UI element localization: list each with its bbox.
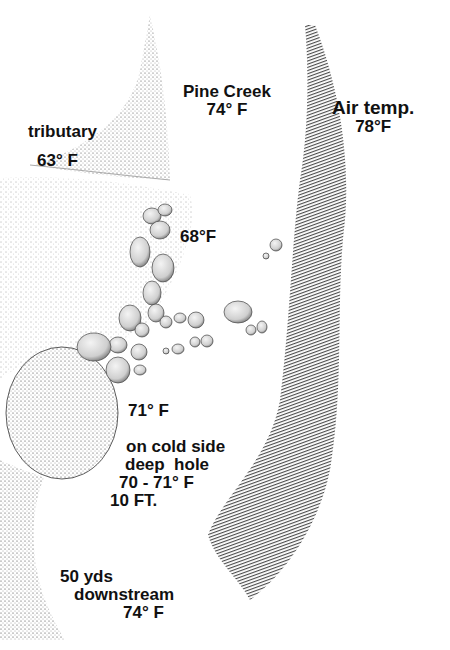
air-temp-value: 78°F <box>332 118 414 136</box>
deep-hole-line2: deep hole <box>125 456 225 474</box>
downstream-temp: 74° F <box>123 604 174 622</box>
pine-creek-name: Pine Creek <box>183 83 271 101</box>
downstream-distance: 50 yds <box>60 568 174 586</box>
downstream-word: downstream <box>74 586 174 604</box>
downstream-label: 50 yds downstream 74° F <box>60 568 174 622</box>
lower-left-bank <box>0 460 65 640</box>
pine-creek-label: Pine Creek 74° F <box>183 83 271 119</box>
deep-hole-line1: on cold side <box>126 438 225 456</box>
deep-hole-temp: 70 - 71° F <box>119 474 225 492</box>
boulders-temp: 68°F <box>180 228 216 246</box>
below-boulder-temp: 71° F <box>128 402 169 420</box>
tributary-temp: 63° F <box>37 152 78 170</box>
pine-creek-temp: 74° F <box>183 101 271 119</box>
large-boulder <box>6 347 118 479</box>
tributary-name: tributary <box>28 123 97 141</box>
air-temp-label: Air temp. 78°F <box>332 98 414 136</box>
deep-hole-depth: 10 FT. <box>110 492 225 510</box>
deep-hole-label: on cold side deep hole 70 - 71° F 10 FT. <box>110 438 225 509</box>
air-temp-name: Air temp. <box>332 98 414 118</box>
